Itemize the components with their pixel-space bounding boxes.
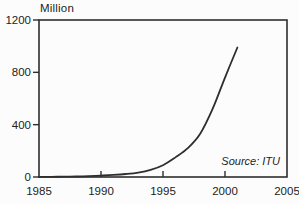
y-tick-label: 400 [12,119,31,131]
data-curve [39,47,237,176]
y-tick-label: 800 [12,66,31,78]
x-tick-label: 1995 [150,185,176,197]
x-tick-label: 1985 [26,185,52,197]
x-tick-label: 2000 [212,185,238,197]
y-tick-label: 1200 [5,14,31,26]
y-tick-label: 0 [25,171,31,183]
x-tick-label: 2005 [274,185,299,197]
x-tick-label: 1990 [88,185,114,197]
chart-canvas: 0400800120019851990199520002005 [0,0,299,204]
y-axis-unit-label: Million [40,2,74,14]
plot-border [39,20,287,177]
line-chart-figure: Million 0400800120019851990199520002005 … [0,0,299,204]
source-annotation: Source: ITU [221,155,280,167]
